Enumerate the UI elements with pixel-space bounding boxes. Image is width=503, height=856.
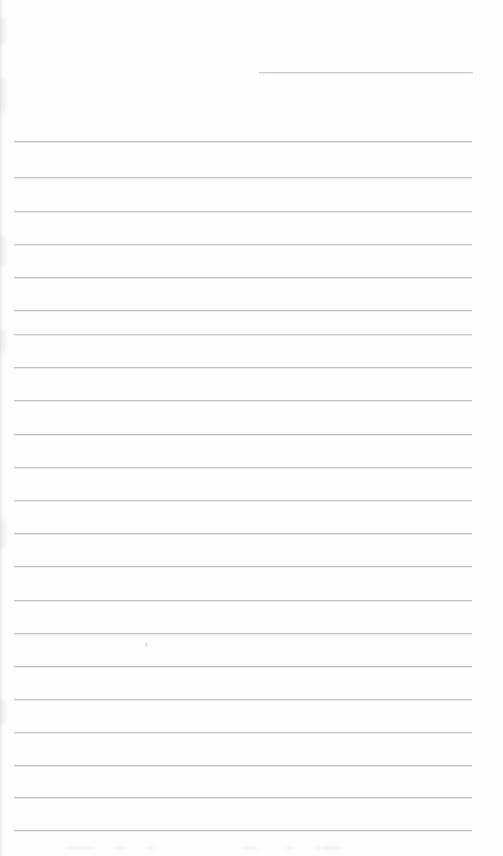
scan-edge-blotch-6 xyxy=(0,700,5,724)
scan-edge-blotch-3 xyxy=(0,236,5,266)
scanned-lined-page xyxy=(0,0,503,856)
scan-edge-blotch-4 xyxy=(0,330,5,352)
scan-edge-blotch-2 xyxy=(0,78,5,112)
scan-edge-blotch-1 xyxy=(0,18,5,44)
scan-edge-blotch-5 xyxy=(0,520,5,548)
scan-left-edge-shadow xyxy=(0,0,6,856)
scan-bottom-noise-band xyxy=(0,840,503,856)
writing-area[interactable] xyxy=(14,80,472,840)
rule-line-01 xyxy=(259,72,473,73)
